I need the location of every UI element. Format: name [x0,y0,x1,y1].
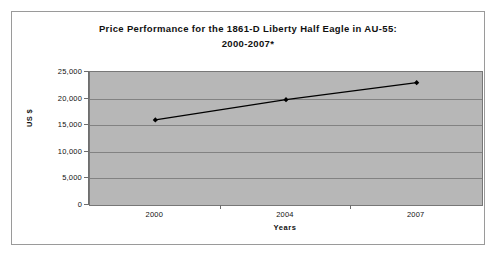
data-point-marker [153,117,158,122]
y-tick-mark [84,71,88,72]
series-markers [153,80,420,122]
y-tick-mark [84,204,88,205]
y-tick-label: 10,000 [34,146,86,155]
line-series [90,72,482,205]
x-tick-mark [220,205,221,209]
x-axis-label: Years [89,223,481,232]
y-tick-label: 25,000 [34,67,86,76]
x-tick-label: 2004 [276,210,294,219]
y-axis-label: US $ [25,109,34,127]
y-tick-mark [84,124,88,125]
y-tick-mark [84,151,88,152]
x-tick-mark [350,205,351,209]
y-axis-tick-labels: 25,000 20,000 15,000 10,000 5,000 0 [34,71,86,204]
y-tick-label: 15,000 [34,120,86,129]
chart-title-line-2: 2000-2007* [12,36,484,51]
chart-title: Price Performance for the 1861-D Liberty… [12,21,484,51]
x-tick-label: 2000 [146,210,164,219]
plot-area [89,71,483,206]
y-tick-label: 0 [34,200,86,209]
data-point-marker [283,97,288,102]
y-tick-label: 5,000 [34,173,86,182]
chart-title-line-1: Price Performance for the 1861-D Liberty… [99,23,397,34]
y-tick-mark [84,177,88,178]
y-tick-mark [84,98,88,99]
data-point-marker [414,80,419,85]
y-tick-label: 20,000 [34,93,86,102]
chart-figure: Price Performance for the 1861-D Liberty… [11,11,485,245]
x-tick-label: 2007 [407,210,425,219]
